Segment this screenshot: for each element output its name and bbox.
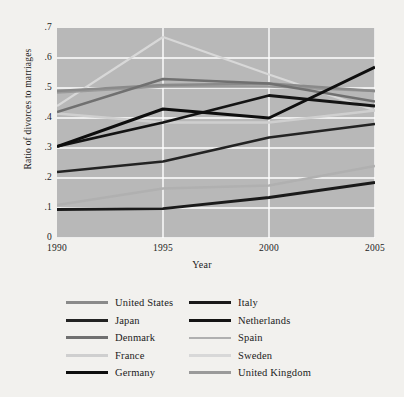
y-tick-label: 0 bbox=[34, 233, 52, 243]
legend-swatch-line-icon bbox=[66, 354, 108, 357]
legend-label: Sweden bbox=[238, 350, 272, 361]
legend-label: Germany bbox=[115, 367, 155, 378]
series-line bbox=[57, 96, 375, 147]
legend-item[interactable]: Sweden bbox=[189, 347, 342, 365]
y-tick-label: .4 bbox=[34, 113, 52, 123]
x-tick-label: 2005 bbox=[355, 243, 395, 253]
legend-swatch-line-icon bbox=[189, 337, 231, 340]
y-tick-label: .6 bbox=[34, 53, 52, 63]
legend-swatch-line-icon bbox=[189, 301, 231, 304]
plot-area bbox=[57, 28, 375, 238]
chart-legend: United StatesItalyJapanNetherlandsDenmar… bbox=[66, 294, 342, 382]
legend-item[interactable]: Spain bbox=[189, 329, 342, 347]
x-axis-title: Year bbox=[0, 259, 404, 270]
y-tick-label: .7 bbox=[34, 23, 52, 33]
legend-item[interactable]: Germany bbox=[66, 364, 189, 382]
legend-swatch-line-icon bbox=[66, 336, 108, 339]
legend-item[interactable]: Netherlands bbox=[189, 312, 342, 330]
legend-item[interactable]: Denmark bbox=[66, 329, 189, 347]
legend-swatch-line-icon bbox=[66, 319, 108, 322]
gridlines bbox=[57, 28, 375, 238]
legend-item[interactable]: Italy bbox=[189, 294, 342, 312]
legend-swatch-line-icon bbox=[66, 371, 108, 374]
y-tick-label: .3 bbox=[34, 143, 52, 153]
legend-swatch-line-icon bbox=[189, 319, 231, 322]
legend-label: United Kingdom bbox=[238, 367, 311, 378]
legend-swatch-line-icon bbox=[189, 354, 231, 357]
legend-label: United States bbox=[115, 297, 173, 308]
legend-label: France bbox=[115, 350, 144, 361]
legend-label: Spain bbox=[238, 332, 263, 343]
x-tick-label: 1995 bbox=[143, 243, 183, 253]
legend-item[interactable]: Japan bbox=[66, 312, 189, 330]
series-line bbox=[57, 166, 375, 205]
series-line bbox=[57, 37, 375, 111]
x-tick-label: 2000 bbox=[249, 243, 289, 253]
legend-item[interactable]: France bbox=[66, 347, 189, 365]
y-tick-label: .5 bbox=[34, 83, 52, 93]
y-axis-title: Ratio of divorces to marriages bbox=[23, 19, 33, 199]
y-tick-label: .2 bbox=[34, 173, 52, 183]
legend-label: Japan bbox=[115, 315, 140, 326]
legend-label: Netherlands bbox=[238, 315, 290, 326]
legend-item[interactable]: United Kingdom bbox=[189, 364, 342, 382]
chart-figure: 0.1.2.3.4.5.6.7 1990199520002005 Year Ra… bbox=[0, 0, 404, 397]
legend-label: Italy bbox=[238, 297, 258, 308]
legend-swatch-line-icon bbox=[66, 301, 108, 304]
plot-svg bbox=[57, 28, 375, 238]
legend-item[interactable]: United States bbox=[66, 294, 189, 312]
x-tick-label: 1990 bbox=[37, 243, 77, 253]
legend-swatch-line-icon bbox=[189, 371, 231, 374]
series-lines bbox=[57, 37, 375, 210]
legend-label: Denmark bbox=[115, 332, 155, 343]
y-tick-label: .1 bbox=[34, 203, 52, 213]
